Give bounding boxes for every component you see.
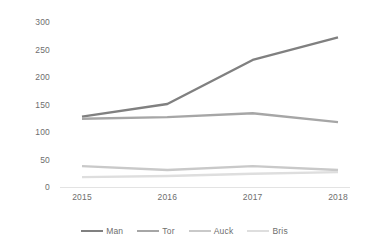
series-line-bris [82, 172, 338, 177]
legend-label: Auck [214, 226, 234, 236]
legend-label: Man [106, 226, 123, 236]
y-axis-tick-label: 50 [40, 155, 50, 165]
series-container [60, 22, 350, 187]
series-line-auck [82, 166, 338, 170]
legend-swatch-icon [81, 230, 103, 233]
x-axis-tick-label: 2017 [243, 192, 263, 202]
y-axis: 050100150200250300 [0, 0, 58, 187]
x-axis-tick-label: 2015 [72, 192, 92, 202]
x-axis: 2015201620172018 [60, 192, 350, 208]
plot-area [60, 22, 350, 187]
chart-legend: ManTorAuckBris [0, 222, 369, 240]
legend-swatch-icon [137, 230, 159, 233]
y-axis-tick-label: 0 [45, 182, 50, 192]
y-axis-tick-label: 300 [35, 17, 50, 27]
line-chart: 050100150200250300 2015201620172018 ManT… [0, 0, 369, 247]
x-axis-tick-label: 2016 [157, 192, 177, 202]
legend-label: Bris [272, 226, 287, 236]
series-line-tor [82, 113, 338, 122]
x-axis-tick-label: 2018 [328, 192, 348, 202]
legend-item-auck[interactable]: Auck [189, 226, 234, 236]
series-line-man [82, 37, 338, 116]
legend-item-tor[interactable]: Tor [137, 226, 174, 236]
legend-item-man[interactable]: Man [81, 226, 123, 236]
y-axis-tick-label: 250 [35, 45, 50, 55]
y-axis-tick-label: 100 [35, 127, 50, 137]
y-axis-tick-label: 150 [35, 100, 50, 110]
x-axis-line [60, 187, 350, 188]
legend-label: Tor [162, 226, 174, 236]
y-axis-tick-label: 200 [35, 72, 50, 82]
legend-swatch-icon [247, 230, 269, 233]
legend-swatch-icon [189, 230, 211, 233]
legend-item-bris[interactable]: Bris [247, 226, 287, 236]
